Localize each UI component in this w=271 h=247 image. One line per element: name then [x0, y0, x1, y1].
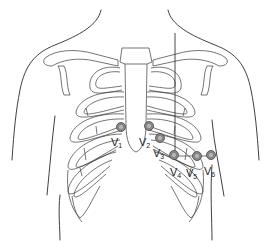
label-sub: 5	[193, 173, 197, 180]
electrode-v6	[207, 151, 216, 160]
label-sub: 1	[118, 142, 122, 149]
label-v1: V1	[111, 137, 122, 149]
label-v3: V3	[153, 148, 164, 160]
label-sub: 3	[160, 153, 164, 160]
label-v5: V5	[186, 168, 197, 180]
label-sub: 4	[177, 172, 181, 179]
electrode-v2	[145, 122, 154, 131]
label-sub: 6	[211, 171, 215, 178]
label-v2: V2	[139, 137, 150, 149]
label-v4: V4	[170, 167, 181, 179]
electrode-v5	[193, 152, 202, 161]
chest-diagram	[0, 0, 271, 247]
label-sub: 2	[146, 142, 150, 149]
electrode-v3	[156, 134, 165, 143]
electrode-v4	[170, 151, 179, 160]
label-v6: V6	[204, 166, 215, 178]
electrode-v1	[117, 123, 126, 132]
